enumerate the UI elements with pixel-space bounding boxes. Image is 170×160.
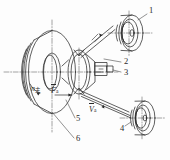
lower-belt	[79, 90, 131, 118]
cone-hub-line-bottom	[62, 78, 69, 84]
lower-belt-edge-1	[79, 90, 129, 112]
adjusting-block	[95, 63, 113, 76]
upper-belt-arrowhead	[99, 34, 103, 37]
axial-force-arrow	[55, 94, 72, 97]
leader-5	[66, 100, 75, 118]
leader-1	[138, 14, 147, 20]
leader-6	[52, 112, 74, 138]
disc-rotation-arrowhead	[37, 93, 40, 96]
lower-belt-edge-2	[80, 94, 130, 116]
figure-canvas: 1 2 3 4 5 6 n主 Fa Va	[0, 0, 170, 160]
drive-schematic-drawing	[0, 0, 170, 160]
leader-3	[113, 70, 121, 72]
disc-top-tangent	[34, 31, 52, 40]
lower-belt-edge-3	[82, 97, 132, 119]
block-stub-shaft	[107, 66, 113, 72]
cone-hub-line-top	[62, 60, 69, 66]
upper-belt-edge-1	[79, 26, 113, 54]
leader-2	[104, 59, 121, 62]
disc-bottom-tangent	[34, 104, 52, 113]
leader-4	[125, 122, 131, 126]
